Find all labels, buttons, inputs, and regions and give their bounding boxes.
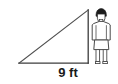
base-length-label: 9 ft (40, 65, 96, 80)
diagram-canvas: 9 ft (0, 0, 118, 84)
person-figure (92, 9, 110, 64)
torso-shirt-shape (92, 21, 110, 40)
skirt-shape (94, 40, 109, 50)
right-foot-shape (103, 62, 108, 64)
left-foot-shape (95, 62, 100, 64)
right-triangle (19, 10, 88, 63)
triangle-hypotenuse-line (19, 10, 88, 63)
right-leg-shape (103, 50, 107, 62)
left-leg-shape (96, 50, 100, 62)
